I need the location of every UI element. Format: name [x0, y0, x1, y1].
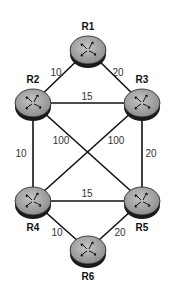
link-cost-label: 20 — [114, 227, 126, 238]
link-cost-label: 15 — [81, 188, 93, 199]
router-node-r5: R5 — [124, 187, 160, 233]
link-cost-label: 10 — [51, 227, 63, 238]
router-label: R1 — [82, 21, 95, 32]
router-label: R2 — [27, 74, 40, 85]
router-label: R4 — [27, 222, 40, 233]
link-cost-label: 100 — [108, 135, 125, 146]
link-cost-label: 15 — [81, 91, 93, 102]
router-label: R6 — [82, 271, 95, 282]
router-icon — [124, 187, 160, 219]
link-cost-label: 20 — [112, 67, 124, 78]
router-icon — [15, 89, 51, 121]
router-icon — [15, 187, 51, 219]
router-icon — [70, 236, 106, 268]
router-node-r2: R2 — [15, 74, 51, 121]
link-cost-label: 100 — [53, 135, 70, 146]
router-icon — [124, 89, 160, 121]
link-cost-label: 20 — [145, 148, 157, 159]
router-label: R5 — [136, 222, 149, 233]
router-node-r3: R3 — [124, 74, 160, 121]
router-label: R3 — [136, 74, 149, 85]
link-cost-label: 10 — [15, 148, 27, 159]
network-diagram: 1020151020100100151020 R1R2R3R4R5R6 — [0, 0, 175, 296]
router-node-r6: R6 — [70, 236, 106, 282]
router-icon — [70, 36, 106, 68]
edges-layer — [33, 50, 142, 250]
router-node-r1: R1 — [70, 21, 106, 68]
link-cost-label: 10 — [50, 67, 62, 78]
router-node-r4: R4 — [15, 187, 51, 233]
